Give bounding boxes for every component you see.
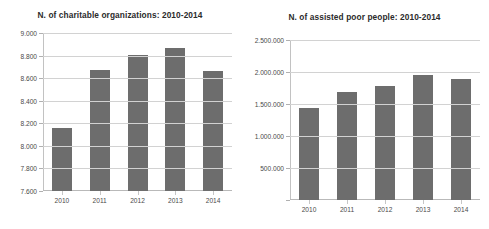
y-tick-mark <box>39 168 43 169</box>
gridline <box>43 78 232 79</box>
y-tick-label: 8.400 <box>20 97 37 104</box>
x-tick-label-2011: 2011 <box>340 206 354 213</box>
x-tick-mark <box>100 191 101 195</box>
bar-2011 <box>90 70 110 191</box>
bars-layer-right <box>290 40 480 200</box>
x-tick-mark <box>175 191 176 195</box>
chart-title-left: N. of charitable organizations: 2010-201… <box>0 10 240 20</box>
x-tick-mark <box>423 200 424 204</box>
bar-2013 <box>413 75 433 200</box>
y-tick-mark <box>39 123 43 124</box>
y-tick-label: 2.000.000 <box>255 69 284 76</box>
bar-2014 <box>203 71 223 191</box>
x-tick-mark <box>309 200 310 204</box>
x-tick-label-2011: 2011 <box>93 197 107 204</box>
x-tick-label-2013: 2013 <box>168 197 183 204</box>
y-tick-mark <box>286 40 290 41</box>
dual-bar-chart-figure: N. of charitable organizations: 2010-201… <box>0 0 489 229</box>
gridline <box>290 168 480 169</box>
x-tick-label-2014: 2014 <box>454 206 469 213</box>
y-tick-mark <box>39 101 43 102</box>
y-tick-mark <box>286 136 290 137</box>
x-tick-label-2014: 2014 <box>206 197 221 204</box>
y-tick-mark <box>39 33 43 34</box>
y-tick-label: 500.000 <box>260 165 284 172</box>
gridline <box>290 136 480 137</box>
gridline <box>43 168 232 169</box>
x-tick-label-2012: 2012 <box>130 197 145 204</box>
y-tick-label: 8.600 <box>20 75 37 82</box>
y-tick-label: 9.000 <box>20 30 37 37</box>
chart-title-right: N. of assisted poor people: 2010-2014 <box>240 12 489 22</box>
bar-2013 <box>165 48 185 191</box>
x-tick-mark <box>62 191 63 195</box>
bar-2011 <box>337 92 357 200</box>
x-tick-label-2012: 2012 <box>378 206 393 213</box>
y-tick-mark <box>39 146 43 147</box>
gridline <box>290 104 480 105</box>
gridline <box>43 146 232 147</box>
x-tick-label-2010: 2010 <box>55 197 70 204</box>
x-tick-mark <box>213 191 214 195</box>
gridline <box>290 40 480 41</box>
gridline <box>43 33 232 34</box>
bar-2010 <box>299 108 319 200</box>
x-tick-label-2010: 2010 <box>302 206 317 213</box>
chart-panel-charitable-organizations: N. of charitable organizations: 2010-201… <box>0 0 240 229</box>
plot-area-left: 7.6007.8008.0008.2008.4008.6008.8009.000… <box>43 33 232 191</box>
x-tick-mark <box>385 200 386 204</box>
y-tick-label: 8.000 <box>20 142 37 149</box>
y-tick-label: 1.500.000 <box>255 101 284 108</box>
y-tick-label: 7.800 <box>20 165 37 172</box>
y-tick-label: 7.600 <box>20 188 37 195</box>
x-tick-mark <box>347 200 348 204</box>
gridline <box>43 56 232 57</box>
gridline <box>43 101 232 102</box>
y-tick-mark <box>39 78 43 79</box>
y-tick-mark <box>39 191 43 192</box>
y-tick-label: 1.000.000 <box>255 133 284 140</box>
bar-2014 <box>451 79 471 200</box>
y-tick-mark <box>39 56 43 57</box>
y-tick-mark <box>286 168 290 169</box>
y-tick-label: 8.200 <box>20 120 37 127</box>
gridline <box>43 123 232 124</box>
x-tick-label-2013: 2013 <box>416 206 431 213</box>
bar-2010 <box>52 128 72 191</box>
y-tick-mark <box>286 200 290 201</box>
y-tick-label: 2.500.000 <box>255 37 284 44</box>
x-tick-mark <box>138 191 139 195</box>
plot-area-right: 500.0001.000.0001.500.0002.000.0002.500.… <box>290 40 480 200</box>
y-tick-mark <box>286 104 290 105</box>
bars-layer-left <box>43 33 232 191</box>
y-tick-label: 8.800 <box>20 52 37 59</box>
gridline <box>290 72 480 73</box>
chart-panel-assisted-poor-people: N. of assisted poor people: 2010-2014 50… <box>240 0 489 229</box>
y-tick-mark <box>286 72 290 73</box>
x-tick-mark <box>461 200 462 204</box>
